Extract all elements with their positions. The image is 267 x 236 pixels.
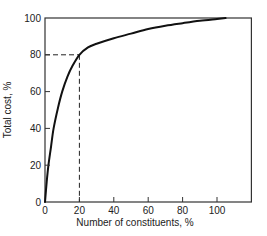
pareto-chart: 020406080100 020406080100 Number of cons…: [0, 0, 267, 236]
series-line: [45, 18, 226, 202]
plot-frame: [45, 18, 251, 202]
y-tick-label: 0: [35, 197, 41, 208]
y-tick-label: 20: [30, 160, 42, 171]
cost-curve: [45, 18, 226, 202]
x-axis-label: Number of constituents, %: [76, 217, 193, 228]
y-tick-label: 60: [30, 86, 42, 97]
y-tick-label: 40: [30, 123, 42, 134]
reference-guides: [45, 55, 79, 202]
y-tick-label: 80: [30, 49, 42, 60]
x-axis-ticks: 020406080100: [42, 197, 226, 216]
y-axis-label: Total cost, %: [2, 82, 13, 139]
x-tick-label: 40: [108, 205, 120, 216]
x-tick-label: 100: [209, 205, 226, 216]
x-tick-label: 60: [143, 205, 155, 216]
x-tick-label: 80: [177, 205, 189, 216]
plot-border: [45, 18, 251, 202]
y-tick-label: 100: [24, 13, 41, 24]
x-tick-label: 20: [74, 205, 86, 216]
x-tick-label: 0: [42, 205, 48, 216]
